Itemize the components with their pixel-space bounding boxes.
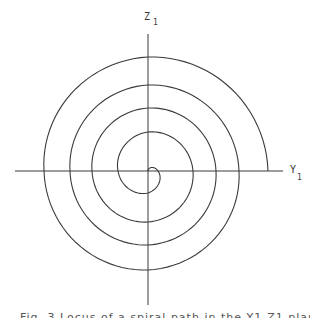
z-axis-subscript: 1 xyxy=(153,19,158,27)
spiral-diagram-canvas xyxy=(0,0,315,318)
spiral-figure: Z 1 Y 1 Fig. 3 Locus of a spiral path in… xyxy=(0,0,315,318)
z-axis-label-text: Z xyxy=(144,11,150,22)
figure-caption: Fig. 3 Locus of a spiral path in the Y1-… xyxy=(20,311,310,318)
y-axis-label-text: Y xyxy=(290,164,296,175)
y-axis-subscript: 1 xyxy=(297,174,302,182)
z-axis-label: Z 1 xyxy=(144,12,150,22)
y-axis-label: Y 1 xyxy=(290,165,296,175)
spiral-curve xyxy=(44,57,268,270)
